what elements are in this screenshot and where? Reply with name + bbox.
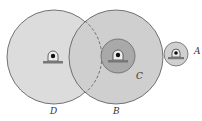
label-a: A <box>193 46 201 56</box>
label-b: B <box>112 106 120 116</box>
label-d: D <box>49 106 57 116</box>
label-c: C <box>136 71 143 81</box>
gear-diagram: D B C A <box>0 0 202 121</box>
